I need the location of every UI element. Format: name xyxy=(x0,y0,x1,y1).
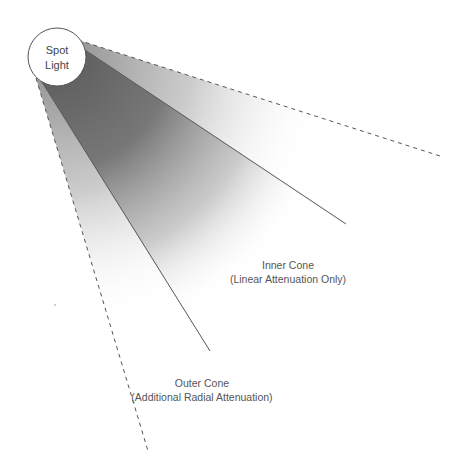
inner-cone-label-line2: (Linear Attenuation Only) xyxy=(230,273,346,285)
spot-light-circle xyxy=(28,28,86,86)
outer-cone-label-line1: Outer Cone xyxy=(175,377,229,389)
inner-cone-label-line1: Inner Cone xyxy=(262,259,314,271)
spot-light-label-line1: Spot xyxy=(46,44,69,56)
spotlight-diagram: Spot Light Inner Cone (Linear Attenuatio… xyxy=(0,0,462,469)
outer-cone-label-line2: (Additional Radial Attenuation) xyxy=(131,391,272,403)
speck xyxy=(54,304,56,306)
spot-light-label-line2: Light xyxy=(45,59,69,71)
